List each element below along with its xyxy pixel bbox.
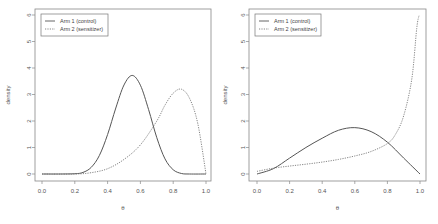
y-tick-label: 6 [240,13,246,17]
y-tick-label: 4 [240,66,246,70]
x-tick-label: 0.4 [103,188,112,194]
series-line-arm2-sensitizer [257,15,419,171]
y-tick-label: 2 [240,119,246,123]
y-tick-label: 3 [240,92,246,96]
x-tick-label: 0.0 [253,188,262,194]
x-tick-label: 0.6 [351,188,360,194]
x-tick-label: 1.0 [202,188,211,194]
y-axis-label: density [5,85,11,104]
y-tick-label: 0 [240,172,246,176]
x-tick-label: 0.8 [169,188,178,194]
y-tick-label: 6 [26,13,32,17]
chart-figure: 0.00.20.40.60.81.00123456θdensityArm 1 (… [0,0,438,224]
legend-label: Arm 1 (control) [274,18,311,24]
legend-label: Arm 1 (control) [60,18,97,24]
y-tick-label: 1 [240,145,246,149]
legend: Arm 1 (control)Arm 2 (sensitizer) [255,14,321,36]
x-axis-label: θ [336,205,340,211]
x-tick-label: 0.2 [285,188,294,194]
y-tick-label: 0 [26,172,32,176]
x-tick-label: 0.0 [38,188,47,194]
series-line-arm2-sensitizer [42,89,206,174]
y-tick-label: 4 [26,66,32,70]
y-tick-label: 5 [240,39,246,43]
y-tick-label: 5 [26,39,32,43]
legend: Arm 1 (control)Arm 2 (sensitizer) [41,14,108,36]
y-tick-label: 1 [26,145,32,149]
y-tick-label: 3 [26,92,32,96]
x-tick-label: 0.2 [71,188,80,194]
panel-2: 0.00.20.40.60.81.00123456θdensityArm 1 (… [222,9,426,211]
legend-label: Arm 2 (sensitizer) [274,26,317,32]
y-axis-label: density [222,85,228,104]
x-tick-label: 0.8 [383,188,392,194]
x-tick-label: 0.6 [136,188,145,194]
x-tick-label: 1.0 [416,188,425,194]
series-group [42,75,206,174]
panel-1: 0.00.20.40.60.81.00123456θdensityArm 1 (… [5,9,211,211]
y-tick-label: 2 [26,119,32,123]
x-axis-label: θ [121,205,125,211]
series-group [257,15,420,174]
legend-label: Arm 2 (sensitizer) [60,26,103,32]
x-tick-label: 0.4 [318,188,327,194]
